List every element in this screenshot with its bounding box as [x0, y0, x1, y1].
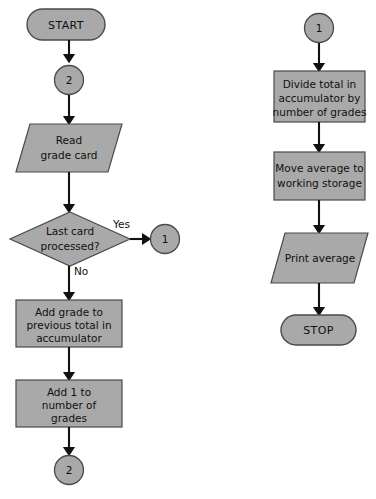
node-divide-total[interactable]: Divide total in accumulator by number of… — [273, 71, 367, 122]
move-average-line1: Move average to — [275, 162, 363, 174]
read-grade-card-line1: Read — [56, 134, 82, 146]
divide-total-line3: number of grades — [273, 106, 367, 118]
node-connector-2-out[interactable]: 2 — [55, 456, 84, 485]
node-decision-last-card[interactable]: Last card processed? — [10, 212, 130, 266]
connector-1-out-label: 1 — [162, 233, 169, 245]
connector-2-in-label: 2 — [66, 74, 73, 86]
start-label: START — [48, 19, 84, 32]
add-one-line2: number of — [42, 399, 97, 411]
add-one-line3: grades — [51, 412, 87, 424]
move-average-line2: working storage — [277, 177, 362, 189]
node-stop[interactable]: STOP — [281, 315, 356, 345]
node-read-grade-card[interactable]: Read grade card — [16, 124, 122, 172]
node-add-grade[interactable]: Add grade to previous total in accumulat… — [16, 300, 122, 347]
add-grade-line2: previous total in — [26, 319, 111, 331]
decision-line2: processed? — [40, 240, 99, 252]
node-connector-1-in[interactable]: 1 — [305, 14, 334, 43]
decision-line1: Last card — [46, 225, 94, 237]
node-start[interactable]: START — [27, 9, 105, 40]
node-connector-2-in[interactable]: 2 — [55, 66, 84, 95]
print-average-line1: Print average — [285, 252, 355, 264]
connector-2-out-label: 2 — [66, 464, 73, 476]
read-grade-card-shape — [16, 124, 122, 172]
branch-label-yes: Yes — [112, 218, 130, 230]
node-connector-1-out[interactable]: 1 — [151, 225, 180, 254]
flowchart-diagram: START 2 Read grade card Last card proces… — [0, 0, 376, 499]
add-grade-line1: Add grade to — [35, 306, 103, 318]
branch-label-no: No — [74, 265, 88, 277]
read-grade-card-line2: grade card — [41, 149, 98, 161]
add-one-line1: Add 1 to — [47, 386, 91, 398]
move-average-shape — [274, 152, 365, 200]
node-add-one[interactable]: Add 1 to number of grades — [16, 380, 122, 427]
divide-total-line1: Divide total in — [283, 78, 357, 90]
connector-1-in-label: 1 — [316, 22, 323, 34]
stop-label: STOP — [303, 324, 334, 337]
node-print-average[interactable]: Print average — [271, 233, 368, 283]
decision-last-card-shape — [10, 212, 130, 266]
add-grade-line3: accumulator — [36, 332, 102, 344]
node-move-average[interactable]: Move average to working storage — [274, 152, 365, 200]
divide-total-line2: accumulator by — [279, 92, 361, 104]
